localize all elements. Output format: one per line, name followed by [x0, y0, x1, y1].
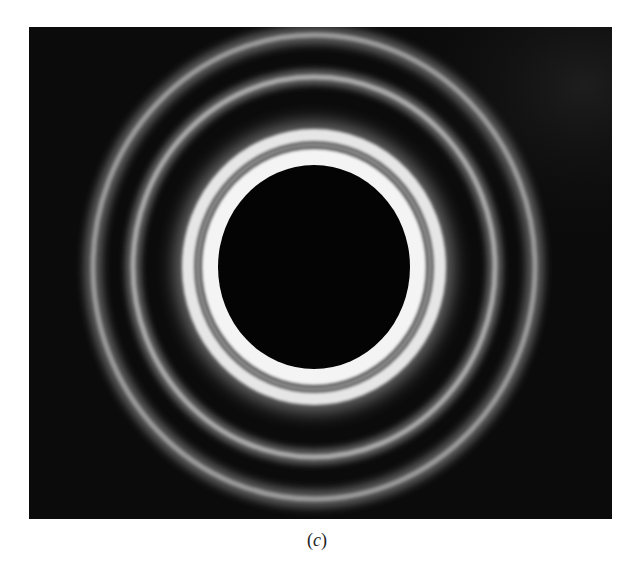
figure-caption: (c)	[0, 530, 634, 551]
ring-pattern-graphic	[29, 27, 612, 519]
central-dark-disc	[218, 165, 410, 369]
diffraction-ring-photo	[29, 27, 612, 519]
caption-close-paren: )	[321, 530, 327, 550]
caption-label: c	[313, 530, 321, 550]
